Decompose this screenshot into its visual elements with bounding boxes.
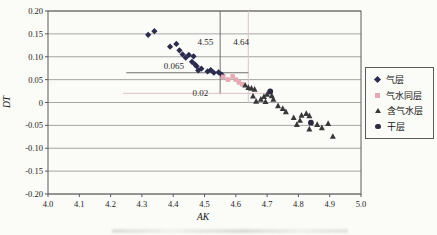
- data-point-gas-layer: [190, 53, 196, 59]
- data-point-gas-bearing-water-layer: [275, 103, 281, 109]
- diamond-marker-icon: [374, 76, 381, 83]
- legend-item-gas-layer: 气层: [375, 74, 431, 86]
- data-point-gas-bearing-water-layer: [330, 133, 336, 139]
- data-point-gas-bearing-water-layer: [291, 114, 297, 120]
- annotation-label: 4.64: [233, 37, 249, 47]
- annotation-label: 4.55: [198, 37, 214, 47]
- y-tick-label: -0.05: [25, 120, 43, 130]
- data-point-gas-bearing-water-layer: [299, 112, 305, 118]
- triangle-marker-icon: [375, 108, 381, 113]
- legend-label: 气层: [386, 73, 404, 86]
- data-point-gas-layer: [145, 32, 151, 38]
- x-tick-label: 4.2: [105, 199, 116, 209]
- data-point-dry-layer: [267, 89, 273, 95]
- x-tick-label: 4.7: [262, 199, 273, 209]
- data-point-gas-layer: [151, 28, 157, 34]
- y-tick-label: 0: [39, 98, 43, 108]
- x-tick-label: 4.9: [324, 199, 335, 209]
- x-tick-label: 4.1: [74, 199, 85, 209]
- x-axis-title: AK: [197, 212, 209, 222]
- legend-label: 干层: [387, 120, 405, 133]
- data-point-gas-bearing-water-layer: [253, 98, 259, 104]
- chart-panel: 4.04.14.24.34.44.54.64.74.84.95.00.200.1…: [0, 0, 437, 235]
- data-point-dry-layer: [308, 120, 314, 126]
- x-tick-label: 4.5: [199, 199, 210, 209]
- legend-item-dry-layer: 干层: [375, 120, 431, 132]
- data-point-gas-water-same-layer: [221, 75, 226, 80]
- data-point-gas-bearing-water-layer: [325, 120, 331, 126]
- cropped-caption-remnant: [112, 229, 348, 233]
- y-tick-label: -0.15: [25, 166, 43, 176]
- data-point-gas-bearing-water-layer: [306, 126, 312, 132]
- legend-item-gas-bearing-water-layer: 含气水层: [375, 105, 431, 117]
- y-tick-label: 0.10: [28, 52, 43, 62]
- data-point-gas-layer: [173, 41, 179, 47]
- annotation-label: 0.02: [193, 88, 209, 98]
- data-point-gas-bearing-water-layer: [314, 121, 320, 127]
- y-axis-title: DT: [2, 96, 12, 108]
- legend-label: 气水同层: [386, 89, 422, 102]
- x-tick-label: 4.4: [168, 199, 179, 209]
- x-tick-label: 5.0: [356, 199, 367, 209]
- legend-label: 含气水层: [387, 104, 423, 117]
- data-point-gas-bearing-water-layer: [297, 117, 303, 123]
- x-tick-label: 4.8: [293, 199, 304, 209]
- x-tick-label: 4.0: [43, 199, 54, 209]
- y-tick-label: -0.20: [25, 189, 43, 199]
- square-marker-icon: [375, 93, 380, 98]
- annotation-label: 0.065: [164, 61, 185, 71]
- x-tick-label: 4.6: [230, 199, 241, 209]
- data-point-gas-layer: [167, 44, 173, 50]
- legend: 气层气水同层含气水层干层: [365, 67, 434, 139]
- x-tick-label: 4.3: [137, 199, 148, 209]
- y-tick-label: -0.10: [25, 143, 43, 153]
- y-tick-label: 0.20: [28, 6, 43, 16]
- circle-marker-icon: [375, 124, 381, 130]
- legend-item-gas-water-same-layer: 气水同层: [375, 89, 431, 101]
- y-tick-label: 0.15: [28, 29, 43, 39]
- data-point-gas-water-same-layer: [226, 77, 231, 82]
- y-tick-label: 0.05: [28, 75, 43, 85]
